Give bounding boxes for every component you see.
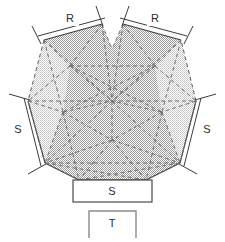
figure-root: R R S S S T bbox=[0, 0, 225, 242]
tick-top-left-inner-icon bbox=[96, 6, 103, 26]
tick-left-upper-icon bbox=[9, 94, 30, 100]
tick-left-lower-icon bbox=[28, 164, 46, 174]
polyhedron-diagram: R R S S S T bbox=[0, 0, 225, 242]
label-radius-left: R bbox=[66, 12, 74, 24]
label-side-left: S bbox=[14, 123, 21, 135]
thickness-box: T bbox=[89, 211, 136, 238]
tick-right-lower-icon bbox=[179, 164, 197, 174]
tick-top-right-outer-icon bbox=[184, 26, 193, 44]
side-length-box: S bbox=[73, 180, 152, 202]
thickness-box-label: T bbox=[109, 217, 116, 229]
tick-top-right-inner-icon bbox=[122, 6, 129, 26]
side-length-box-label: S bbox=[108, 185, 115, 197]
label-side-right: S bbox=[203, 123, 210, 135]
tick-right-upper-icon bbox=[195, 94, 216, 100]
label-radius-right: R bbox=[151, 12, 159, 24]
tick-top-left-outer-icon bbox=[32, 26, 41, 44]
